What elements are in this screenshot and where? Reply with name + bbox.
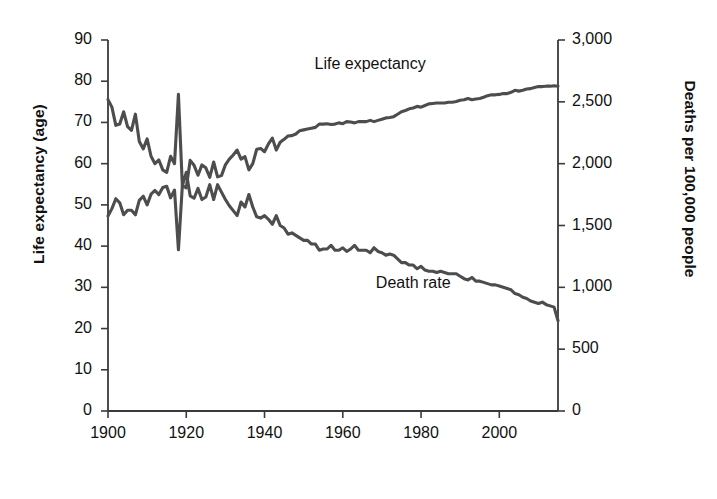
series-line-life-expectancy [108,86,558,250]
axis-lines [101,40,565,418]
chart-figure: Life expectancy (age) Deaths per 100,000… [0,0,717,499]
plot-canvas [0,0,717,499]
series-lines [108,86,558,321]
